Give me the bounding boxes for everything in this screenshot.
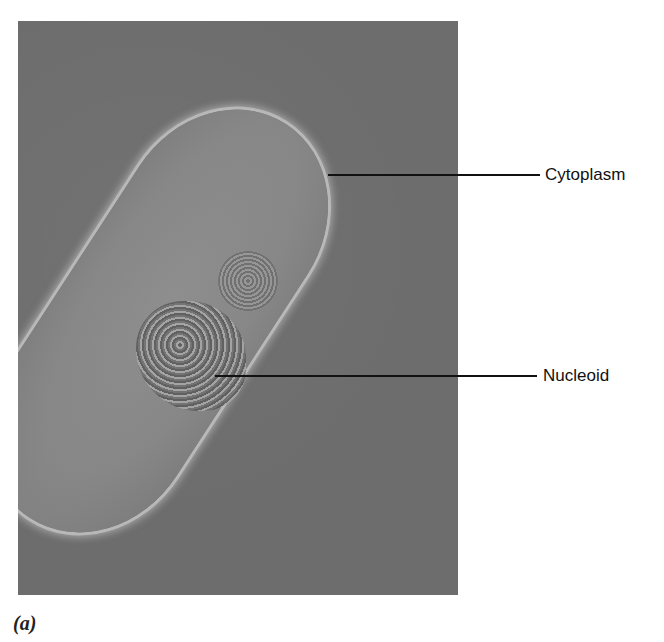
nucleoid-leader-line — [215, 375, 537, 377]
nucleoid-region-secondary — [218, 251, 278, 311]
panel-label: (a) — [13, 612, 36, 635]
cytoplasm-label: Cytoplasm — [545, 166, 625, 183]
micrograph — [18, 21, 458, 595]
nucleoid-label: Nucleoid — [543, 367, 609, 384]
cytoplasm-leader-line — [328, 174, 540, 176]
